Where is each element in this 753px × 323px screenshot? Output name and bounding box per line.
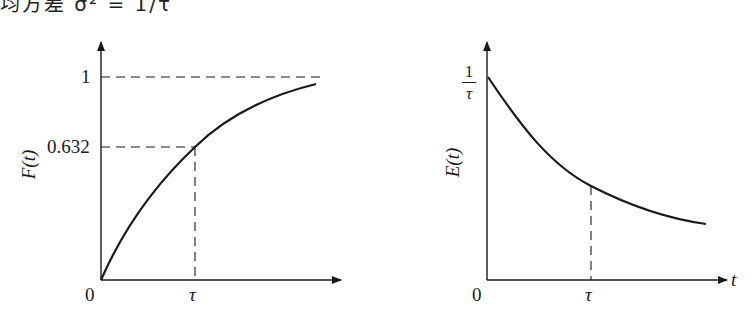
left-ylabel: F(t) [19,147,38,183]
right-tick-one-over-tau: 1 τ [462,63,476,102]
right-ylabel: E(t) [443,145,462,181]
right-xlabel: t [731,270,736,289]
left-chart [101,42,341,280]
pdf-curve [488,77,706,224]
right-chart [487,42,727,280]
left-origin-label: 0 [85,285,95,304]
frac-bar [462,82,476,83]
right-tau-label: τ [585,285,592,304]
left-tick-0632: 0.632 [47,137,90,156]
right-origin-label: 0 [472,285,482,304]
charts-canvas [0,0,753,323]
frac-denominator: τ [466,85,472,102]
left-tick-one: 1 [81,67,91,86]
frac-numerator: 1 [465,63,474,80]
left-tau-label: τ [189,285,196,304]
cdf-curve [101,84,316,280]
